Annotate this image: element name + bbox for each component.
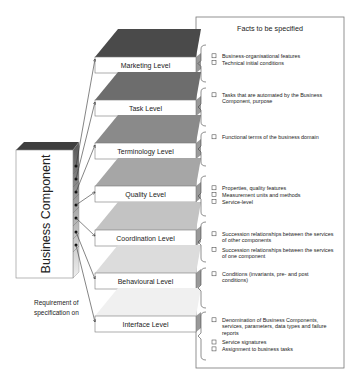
fact-text: Business-organisational features — [222, 53, 301, 59]
level-label: Marketing Level — [121, 62, 171, 70]
business-component-label: Business Component — [39, 154, 53, 273]
fact-text: Denomination of Business Components, — [222, 317, 319, 323]
level-top-face — [95, 245, 201, 273]
level-label: Quality Level — [125, 191, 166, 199]
fact-text: Measurement units and methods — [222, 192, 301, 198]
level-top-face — [95, 202, 201, 230]
requirement-label: Requirement of specification on — [34, 299, 79, 317]
fact-text: Succession relationships between the ser… — [222, 247, 334, 253]
fact-text: Technical initial conditions — [222, 60, 284, 66]
level-top-face — [95, 288, 201, 316]
level-top-face — [95, 158, 201, 186]
fact-text: Conditions (invariants, pre- and post — [222, 271, 309, 277]
level-top-face — [95, 72, 201, 100]
level-label: Coordination Level — [116, 235, 175, 242]
fact-text: of other components — [222, 237, 271, 243]
requirement-line-2: specification on — [34, 309, 79, 317]
level-coordination-level: Coordination Level — [95, 202, 201, 246]
level-behavioural-level: Behavioural Level — [95, 245, 201, 289]
business-component-diagram: Facts to be specified Marketing LevelTas… — [0, 0, 360, 380]
fact-text: services, parameters, data types and fai… — [222, 323, 327, 329]
level-top-face — [95, 115, 201, 143]
level-label: Terminology Level — [117, 148, 174, 156]
fact-text: Service-level — [222, 199, 253, 205]
level-interface-level: Interface Level — [95, 288, 201, 332]
fact-text: Tasks that are automated by the Business — [222, 92, 322, 98]
fact-text: reports — [222, 330, 239, 336]
facts-box-title: Facts to be specified — [237, 24, 303, 33]
level-marketing-level: Marketing Level — [95, 29, 201, 73]
fact-text: Assignment to business tasks — [222, 346, 293, 352]
level-label: Behavioural Level — [118, 278, 174, 285]
requirement-line-1: Requirement of — [34, 299, 79, 307]
level-terminology-level: Terminology Level — [95, 115, 201, 159]
level-quality-level: Quality Level — [95, 158, 201, 202]
fact-text: Properties, quality features — [222, 185, 286, 191]
business-component-block: Business Component — [16, 142, 79, 278]
arrow-icon — [76, 245, 95, 322]
fact-text: conditions) — [222, 277, 248, 283]
fact-text: Succession relationships between the ser… — [222, 231, 334, 237]
level-top-face — [95, 29, 201, 57]
level-task-level: Task Level — [95, 72, 201, 116]
fact-text: Functional terms of the business domain — [222, 134, 319, 140]
fact-text: of one component — [222, 253, 266, 259]
level-label: Task Level — [129, 105, 163, 112]
fact-text: Component, purpose — [222, 98, 272, 104]
level-label: Interface Level — [123, 321, 169, 328]
fact-text: Service signatures — [222, 339, 267, 345]
